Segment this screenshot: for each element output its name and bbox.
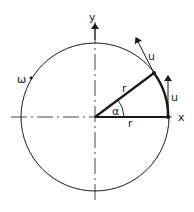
- velocity-right-label: u: [171, 91, 178, 104]
- radius-lower-label: r: [128, 117, 133, 130]
- omega-marker: [30, 77, 33, 80]
- radius-upper: [95, 73, 154, 117]
- radius-upper-label: r: [122, 82, 127, 95]
- velocity-upper-label: u: [148, 50, 155, 63]
- x-axis-label: x: [178, 111, 185, 124]
- angle-label: α: [112, 105, 119, 118]
- circular-motion-diagram: y x ω r r α u u: [0, 0, 194, 212]
- y-axis-label: y: [89, 11, 96, 24]
- arc-segment: [154, 73, 168, 117]
- omega-label: ω: [17, 73, 26, 86]
